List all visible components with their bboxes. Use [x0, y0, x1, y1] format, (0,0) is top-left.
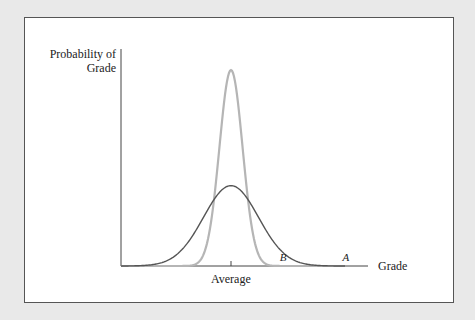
y-axis-label-line-1: Probability of [48, 47, 116, 61]
curve-label-a: A [343, 251, 350, 263]
curve-label-b: B [280, 251, 287, 263]
x-tick-label-average: Average [211, 272, 251, 286]
curve-a [121, 186, 345, 266]
y-axis-label: Probability of Grade [48, 47, 116, 75]
x-axis-label: Grade [378, 259, 407, 273]
curve-b [121, 70, 345, 266]
y-axis-label-line-2: Grade [48, 61, 116, 75]
